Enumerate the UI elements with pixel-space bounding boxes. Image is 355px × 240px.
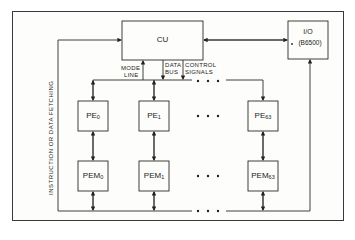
mode-label-2: LINE [124,72,139,79]
data-bus-label-1: DATA [165,62,181,69]
pem-1-label: PEM1 [139,171,169,180]
cu-label: CU [122,35,203,44]
pe-63-label: PE63 [248,111,278,120]
mode-label-1: MODE [121,65,140,72]
pe-1-label: PE1 [139,111,169,120]
pem-0-label: PEM0 [78,171,108,180]
pem-63-label: PEM63 [248,171,278,180]
pe-0-label: PE0 [78,111,108,120]
control-label-2: SIGNALS [185,69,213,76]
data-bus-label-2: BUS [165,69,178,76]
control-label-1: CONTROL [185,62,216,69]
io-label: I/O [288,28,328,35]
io-sublabel: (B6500) [290,39,330,46]
side-label: INSTRUCTION OR DATA FETCHING [48,81,54,195]
